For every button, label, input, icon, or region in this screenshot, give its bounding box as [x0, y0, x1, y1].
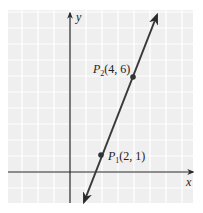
y-axis-label: y — [75, 10, 82, 24]
point-p1-label: P1(2, 1) — [107, 149, 145, 165]
grid-background — [8, 10, 193, 203]
x-axis-label: x — [185, 175, 192, 189]
point-p1 — [98, 152, 104, 158]
coordinate-plane: x y P1(2, 1) P2(4, 6) — [0, 0, 203, 213]
point-p2-label: P2(4, 6) — [92, 62, 130, 78]
point-p2 — [130, 74, 136, 80]
